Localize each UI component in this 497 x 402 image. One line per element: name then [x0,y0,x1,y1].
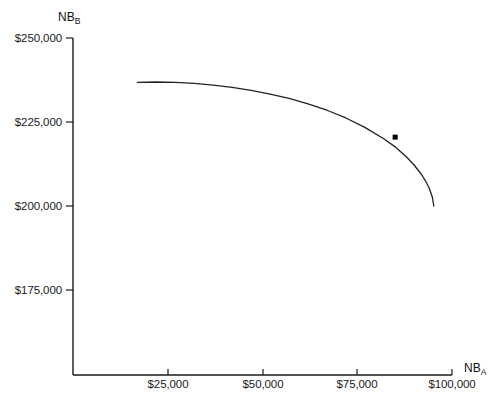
axes-group [73,38,452,375]
y-axis-title-base: NB [58,10,75,24]
selected-allocation-point [393,135,398,140]
x-tick-label-25000: $25,000 [148,378,189,390]
series-group [137,82,433,206]
y-tick-label-200000: $200,000 [0,200,62,212]
y-axis-title: NBB [58,10,80,24]
y-tick-label-225000: $225,000 [0,116,62,128]
chart-container: $250,000 $225,000 $200,000 $175,000 $25,… [0,0,497,402]
x-tick-label-50000: $50,000 [243,378,284,390]
y-axis-title-subscript: B [75,16,81,26]
plot-area [0,0,497,402]
y-tick-label-250000: $250,000 [0,32,62,44]
frontier-curve [137,82,433,206]
x-tick-label-75000: $75,000 [337,378,378,390]
x-axis-title-subscript: A [481,367,487,377]
x-tick-label-100000: $100,000 [428,378,475,390]
y-tick-label-175000: $175,000 [0,284,62,296]
markers-group [393,135,398,140]
x-axis-title: NBA [464,361,486,375]
x-axis-title-base: NB [464,361,481,375]
y-axis-ticks [66,38,73,290]
x-axis-ticks [168,369,452,375]
